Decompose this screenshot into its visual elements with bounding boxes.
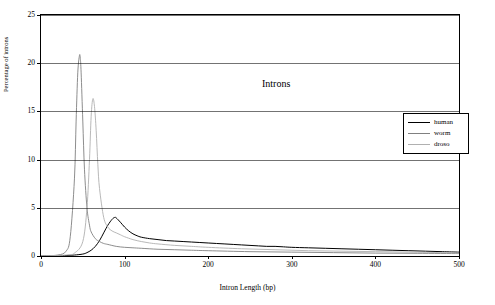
legend-label-droso: droso xyxy=(434,139,450,150)
y-tick-label: 10 xyxy=(11,155,35,164)
y-tick-mark xyxy=(37,111,40,112)
x-tick-mark xyxy=(208,256,209,259)
legend-swatch-human xyxy=(408,122,430,123)
x-tick-label: 300 xyxy=(277,260,307,269)
legend-item-worm: worm xyxy=(406,128,466,139)
legend-item-droso: droso xyxy=(406,139,466,150)
x-tick-mark xyxy=(459,256,460,259)
y-axis-label: Percentage of introns xyxy=(2,37,9,92)
x-axis-label: Intron Length (bp) xyxy=(0,283,495,292)
gridline xyxy=(41,160,459,161)
plot-area xyxy=(40,14,460,257)
y-tick-label: 15 xyxy=(11,106,35,115)
series-canvas xyxy=(41,15,459,256)
series-line-worm xyxy=(41,55,459,256)
legend-label-worm: worm xyxy=(434,128,450,139)
x-tick-label: 100 xyxy=(110,260,140,269)
x-tick-mark xyxy=(292,256,293,259)
x-tick-mark xyxy=(41,256,42,259)
gridline xyxy=(41,63,459,64)
gridline xyxy=(41,208,459,209)
y-tick-mark xyxy=(37,256,40,257)
legend-label-human: human xyxy=(434,117,453,128)
series-line-human xyxy=(41,217,459,256)
gridline xyxy=(41,15,459,16)
y-tick-label: 25 xyxy=(11,10,35,19)
legend-swatch-droso xyxy=(408,144,430,145)
gridline xyxy=(41,111,459,112)
x-tick-label: 400 xyxy=(360,260,390,269)
y-tick-mark xyxy=(37,208,40,209)
y-tick-mark xyxy=(37,15,40,16)
x-tick-label: 0 xyxy=(26,260,56,269)
y-tick-mark xyxy=(37,160,40,161)
chart-figure: 0510152025 0100200300400500 Percentage o… xyxy=(0,0,495,305)
y-tick-label: 0 xyxy=(11,251,35,260)
y-tick-label: 20 xyxy=(11,58,35,67)
x-tick-label: 200 xyxy=(193,260,223,269)
x-tick-mark xyxy=(375,256,376,259)
legend: human worm droso xyxy=(403,113,469,154)
x-tick-mark xyxy=(125,256,126,259)
legend-item-human: human xyxy=(406,117,466,128)
chart-title: Introns xyxy=(262,78,290,89)
y-tick-mark xyxy=(37,63,40,64)
x-tick-label: 500 xyxy=(444,260,474,269)
legend-swatch-worm xyxy=(408,133,430,134)
y-tick-label: 5 xyxy=(11,203,35,212)
